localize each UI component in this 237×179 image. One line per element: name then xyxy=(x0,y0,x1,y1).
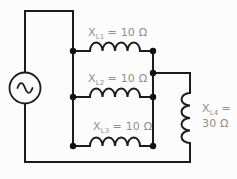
label-L4-line1: XL4= xyxy=(202,102,231,117)
label-L4-equals: = xyxy=(222,102,231,115)
inductor-L1 xyxy=(73,43,153,52)
junction-dots xyxy=(70,48,156,149)
junction-dot xyxy=(150,70,156,76)
junction-dot xyxy=(150,48,156,54)
junction-dot xyxy=(70,48,76,54)
label-L1-value: = 10 Ω xyxy=(108,26,148,39)
circuit-diagram-canvas: XL1= 10 Ω XL2= 10 Ω XL3= 10 Ω XL4= 30 Ω xyxy=(0,0,237,179)
inductor-L3 xyxy=(73,138,153,147)
ac-source xyxy=(10,73,41,104)
junction-dot xyxy=(70,143,76,149)
label-L4-subscript: L4 xyxy=(210,109,219,117)
label-L3: XL3= 10 Ω xyxy=(93,120,152,135)
label-L2-subscript: L2 xyxy=(96,79,105,87)
label-L1: XL1= 10 Ω xyxy=(88,26,147,41)
junction-dot xyxy=(150,143,156,149)
junction-dot xyxy=(150,94,156,100)
label-L2: XL2= 10 Ω xyxy=(88,72,147,87)
label-L1-subscript: L1 xyxy=(96,33,105,41)
label-L4-line2: 30 Ω xyxy=(202,117,229,130)
label-L2-value: = 10 Ω xyxy=(108,72,148,85)
junction-dot xyxy=(70,94,76,100)
parallel-inductor-circuit-diagram: XL1= 10 Ω XL2= 10 Ω XL3= 10 Ω XL4= 30 Ω xyxy=(0,0,237,179)
inductor-L2 xyxy=(73,89,153,98)
inductor-L4 xyxy=(153,73,190,143)
label-L3-subscript: L3 xyxy=(101,127,110,135)
label-L3-value: = 10 Ω xyxy=(113,120,153,133)
